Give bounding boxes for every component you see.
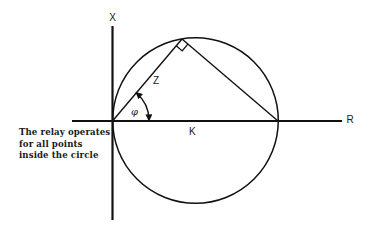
r-axis-label: R [347,114,354,125]
mho-diagram: X R Z φ K [0,0,375,232]
right-angle-marker [176,44,188,51]
k-label: K [189,126,196,137]
note-line-3: inside the circle [19,150,110,162]
phi-label: φ [131,106,138,117]
note-line-1: The relay operates [19,127,110,139]
x-axis-label: X [109,12,116,23]
angle-phi-arc [137,93,150,120]
chord-line [182,39,278,121]
z-label: Z [153,75,159,86]
note-line-2: for all points [19,139,110,151]
operating-region-note: The relay operates for all points inside… [19,127,110,162]
